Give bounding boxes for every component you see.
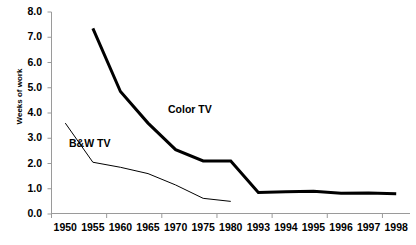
y-axis-tick-marks — [48, 12, 52, 214]
chart-figure: Weeks of work 0.01.02.03.04.05.06.07.08.… — [0, 0, 416, 245]
axis-lines — [52, 12, 411, 214]
series-line — [93, 28, 396, 193]
data-series-lines — [65, 28, 396, 201]
plot-area — [0, 0, 416, 245]
x-axis-tick-marks — [52, 214, 383, 218]
